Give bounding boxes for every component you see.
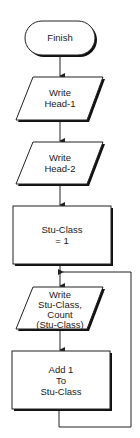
node-label: (Stu-Class) [36,319,84,330]
node-write-head-1: Write Head-1 [16,77,105,122]
node-label: Write [49,87,71,98]
node-label: Stu-Class [41,224,82,235]
node-label: Write [49,152,71,163]
node-label: To [56,375,66,386]
node-label: Stu-Class [40,386,81,397]
node-init-stu-class: Stu-Class = 1 [13,206,113,266]
node-label: Head-1 [44,98,75,109]
node-write-stu-class-count: Write Stu-Class, Count (Stu-Class) [16,287,105,331]
node-label: Finish [47,32,72,43]
flowchart: Finish Write Head-1 Write Head-2 Stu-Cla… [0,0,140,438]
node-label: Add 1 [49,364,74,375]
node-add-1-stu-class: Add 1 To Stu-Class [12,351,112,411]
node-label: Head-2 [44,163,75,174]
node-write-head-2: Write Head-2 [16,142,105,186]
node-finish: Finish [25,21,97,57]
node-label: = 1 [55,235,68,246]
